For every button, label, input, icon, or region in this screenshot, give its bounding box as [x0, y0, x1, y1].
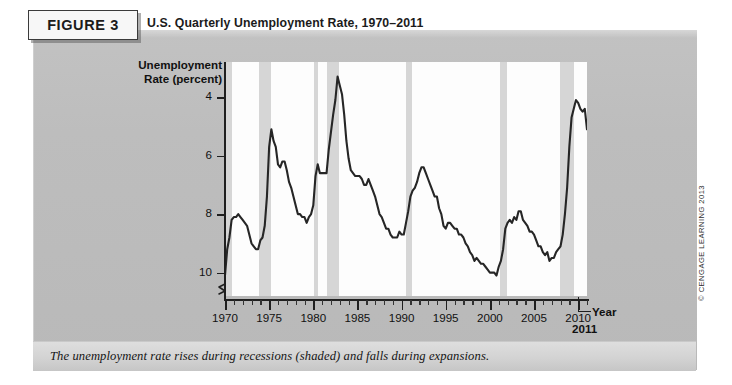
figure-title: U.S. Quarterly Unemployment Rate, 1970–2…	[147, 16, 423, 30]
x-axis-tick-major	[446, 300, 448, 310]
y-axis-tick	[217, 214, 226, 216]
x-axis-tick-minor	[234, 300, 235, 305]
x-axis-tick-minor	[331, 300, 332, 305]
y-axis-tick-label: 6	[188, 148, 212, 161]
x-axis-tick-minor	[349, 300, 350, 305]
x-axis-tick-label: 1985	[335, 311, 379, 324]
x-axis-tick-minor	[410, 300, 411, 305]
x-axis-tick-minor	[296, 300, 297, 305]
figure-page: FIGURE 3 U.S. Quarterly Unemployment Rat…	[0, 0, 732, 385]
x-axis-tick-label: 1980	[291, 311, 335, 324]
x-axis-tick-minor	[393, 300, 394, 305]
unemployment-rate-line	[225, 77, 587, 276]
x-axis-tick-minor	[252, 300, 253, 305]
x-axis-tick-minor	[569, 300, 570, 305]
x-axis-tick-label: 1970	[203, 311, 247, 324]
y-axis-title-line1: Unemployment	[138, 58, 222, 71]
x-axis-tick-minor	[419, 300, 420, 305]
x-axis-tick-minor	[552, 300, 553, 305]
x-axis-tick-minor	[375, 300, 376, 305]
y-axis-tick	[217, 273, 226, 275]
x-axis-tick-major	[490, 300, 492, 310]
x-axis-tick-major	[269, 300, 271, 310]
x-axis-tick-minor	[287, 300, 288, 305]
x-axis-tick-major	[313, 300, 315, 310]
y-axis-break-icon	[216, 280, 234, 298]
x-axis-tick-major	[225, 300, 227, 310]
x-axis-tick-label: 2000	[468, 311, 512, 324]
figure-caption: The unemployment rate rises during reces…	[50, 349, 489, 364]
y-axis-title-line2: Rate (percent)	[144, 72, 222, 85]
x-axis-tick-label: 1975	[247, 311, 291, 324]
x-axis-tick-minor	[428, 300, 429, 305]
x-axis-tick-minor	[322, 300, 323, 305]
x-axis-tick-label: 1990	[380, 311, 424, 324]
x-axis-tick-minor	[278, 300, 279, 305]
x-axis-tick-minor	[463, 300, 464, 305]
y-axis-tick	[217, 97, 226, 99]
x-axis-tick-major	[402, 300, 404, 310]
x-axis-tick-minor	[437, 300, 438, 305]
x-axis-tick-label: 2005	[512, 311, 556, 324]
x-axis-tick-minor	[543, 300, 544, 305]
y-axis-title: Unemployment Rate (percent)	[110, 58, 222, 86]
x-axis-tick-minor	[305, 300, 306, 305]
x-axis-tick-minor	[455, 300, 456, 305]
x-axis-tick-minor	[499, 300, 500, 305]
y-axis-tick-label: 8	[188, 206, 212, 219]
x-axis-tick-minor	[384, 300, 385, 305]
x-axis-tick-major	[357, 300, 359, 310]
figure-caption-strip: The unemployment rate rises during reces…	[33, 341, 696, 371]
x-axis-tick-minor	[366, 300, 367, 305]
x-axis-end-year: 2011	[572, 322, 597, 335]
y-axis-tick-label: 10	[188, 265, 212, 278]
x-axis-tick-minor	[516, 300, 517, 305]
copyright-notice: © CENGAGE LEARNING 2013	[697, 185, 706, 301]
x-axis-tick-minor	[525, 300, 526, 305]
x-axis-tick-minor	[508, 300, 509, 305]
x-axis-tick-minor	[472, 300, 473, 305]
plot-area	[225, 62, 587, 296]
x-axis-title: Year	[592, 305, 617, 318]
x-axis-tick-minor	[243, 300, 244, 305]
x-axis-tick-minor	[340, 300, 341, 305]
unemployment-line-chart	[225, 62, 587, 296]
year-bracket	[578, 297, 591, 312]
y-axis-tick	[217, 156, 226, 158]
x-axis-tick-label: 1995	[424, 311, 468, 324]
x-axis-tick-minor	[561, 300, 562, 305]
x-axis-tick-minor	[260, 300, 261, 305]
figure-number-label: FIGURE 3	[47, 17, 119, 33]
figure-number-badge: FIGURE 3	[28, 10, 138, 40]
x-axis-tick-minor	[481, 300, 482, 305]
y-axis-tick-label: 4	[188, 89, 212, 102]
x-axis-tick-major	[534, 300, 536, 310]
